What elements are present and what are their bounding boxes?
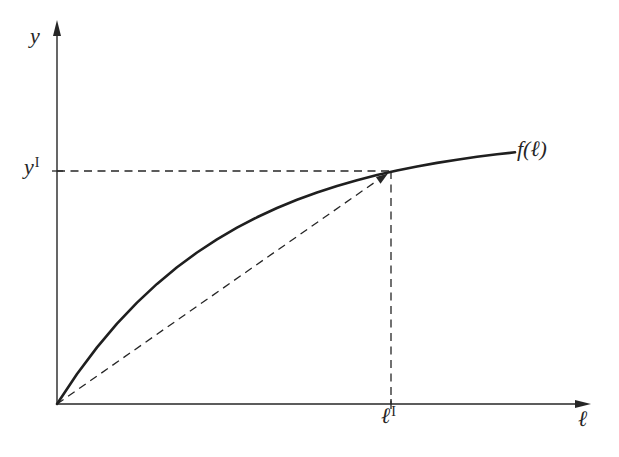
y-value-label: yI — [24, 155, 39, 179]
y-value-superscript: I — [35, 155, 40, 170]
figure-canvas: y yI f(ℓ) ℓI ℓ — [0, 0, 619, 457]
y-axis-arrowhead-icon — [53, 20, 61, 36]
production-function-curve — [57, 152, 515, 404]
x-value-label: ℓI — [381, 404, 396, 428]
curve-label: f(ℓ) — [517, 137, 547, 161]
x-value-superscript: I — [391, 404, 396, 419]
x-axis-label: ℓ — [578, 407, 587, 431]
y-axis-label: y — [30, 24, 40, 48]
y-value-base: y — [24, 154, 34, 179]
dashed-ray-from-origin — [57, 180, 378, 404]
x-value-base: ℓ — [381, 403, 390, 428]
function-plot — [0, 0, 619, 457]
